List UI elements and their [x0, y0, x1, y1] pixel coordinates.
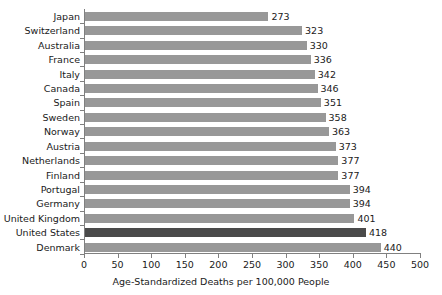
bar-row: Canada346 — [0, 81, 442, 96]
x-axis-tick — [319, 254, 320, 258]
bar-row: Spain351 — [0, 95, 442, 110]
bar-row: France336 — [0, 52, 442, 67]
category-label: Netherlands — [22, 154, 80, 167]
bar-value-label: 351 — [324, 96, 342, 109]
bar-row: Switzerland323 — [0, 23, 442, 38]
x-axis-tick — [252, 254, 253, 258]
bar-row: Japan273 — [0, 9, 442, 24]
plot-area: Japan273Switzerland323Australia330France… — [0, 0, 442, 255]
bar — [85, 98, 321, 107]
x-axis-tick — [218, 254, 219, 258]
bar — [85, 156, 338, 165]
category-label: Norway — [44, 125, 80, 138]
bar-row: Portugal394 — [0, 182, 442, 197]
x-axis-tick — [420, 254, 421, 258]
category-label: Switzerland — [25, 24, 80, 37]
bar — [85, 113, 326, 122]
bar-row: Norway363 — [0, 124, 442, 139]
category-label: United States — [16, 226, 80, 239]
bar — [85, 171, 338, 180]
bar-value-label: 401 — [357, 212, 375, 225]
bar-row: Australia330 — [0, 38, 442, 53]
bar — [85, 70, 315, 79]
bar-value-label: 394 — [353, 183, 371, 196]
x-axis-tick — [353, 254, 354, 258]
bar-row: Denmark440 — [0, 240, 442, 255]
bar-row: United Kingdom401 — [0, 211, 442, 226]
bar-row: Netherlands377 — [0, 153, 442, 168]
bar — [85, 12, 268, 21]
bar-row: Finland377 — [0, 168, 442, 183]
bar-chart: Japan273Switzerland323Australia330France… — [0, 0, 442, 295]
bar-value-label: 323 — [305, 24, 323, 37]
bar-value-label: 377 — [341, 169, 359, 182]
bar — [85, 26, 302, 35]
category-label: Finland — [46, 169, 80, 182]
bar-value-label: 377 — [341, 154, 359, 167]
bar-value-label: 330 — [310, 39, 328, 52]
category-label: Canada — [44, 82, 80, 95]
x-axis-tick — [84, 254, 85, 258]
bar — [85, 127, 329, 136]
category-label: Denmark — [36, 241, 80, 254]
category-label: United Kingdom — [4, 212, 80, 225]
bar-value-label: 440 — [384, 241, 402, 254]
category-label: Spain — [53, 96, 80, 109]
x-axis-tick — [386, 254, 387, 258]
category-label: Japan — [54, 10, 81, 23]
category-label: Australia — [38, 39, 80, 52]
x-axis-tick — [151, 254, 152, 258]
bar-value-label: 418 — [369, 226, 387, 239]
bar — [85, 55, 311, 64]
bar — [85, 41, 307, 50]
bar-value-label: 363 — [332, 125, 350, 138]
bar — [85, 142, 336, 151]
category-label: Sweden — [42, 111, 80, 124]
bar-value-label: 342 — [318, 68, 336, 81]
bar — [85, 185, 350, 194]
category-label: Austria — [46, 140, 80, 153]
bar-row: Austria373 — [0, 139, 442, 154]
bar-highlighted — [85, 228, 366, 237]
category-label: France — [48, 53, 80, 66]
x-axis-title: Age-Standardized Deaths per 100,000 Peop… — [0, 276, 442, 287]
category-label: Portugal — [41, 183, 80, 196]
bar — [85, 243, 381, 252]
x-axis-tick — [118, 254, 119, 258]
bar — [85, 84, 318, 93]
bar-row: Italy342 — [0, 67, 442, 82]
x-axis-tick — [185, 254, 186, 258]
bar — [85, 199, 350, 208]
bar-row: United States418 — [0, 225, 442, 240]
bar — [85, 214, 354, 223]
bar-value-label: 336 — [314, 53, 332, 66]
bar-row: Sweden358 — [0, 110, 442, 125]
bar-value-label: 358 — [329, 111, 347, 124]
category-label: Italy — [59, 68, 80, 81]
category-label: Germany — [36, 197, 80, 210]
x-axis-tick-label: 500 — [400, 259, 440, 271]
bar-value-label: 273 — [271, 10, 289, 23]
bar-row: Germany394 — [0, 196, 442, 211]
x-axis-tick — [286, 254, 287, 258]
bar-value-label: 394 — [353, 197, 371, 210]
bar-value-label: 346 — [321, 82, 339, 95]
bar-value-label: 373 — [339, 140, 357, 153]
